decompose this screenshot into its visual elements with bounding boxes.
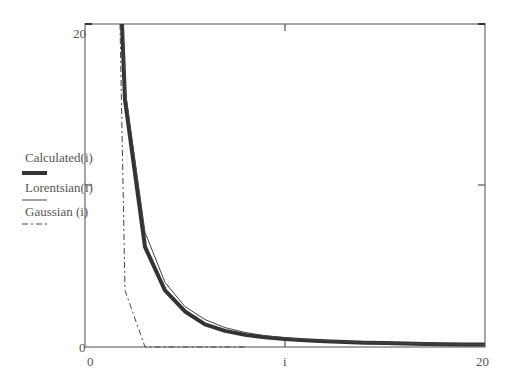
y-min-label: 0 [79, 340, 86, 356]
x-axis-var-label: i [283, 354, 287, 370]
legend-label-calculated: Calculated(i) [25, 150, 93, 166]
legend-label-gaussian: Gaussian (i) [25, 204, 88, 220]
plot-frame [85, 24, 485, 347]
x-max-label: 20 [476, 354, 489, 370]
series-layer [120, 24, 485, 347]
legend-label-lorentsian: Lorentsian(i) [25, 180, 93, 196]
y-max-label: 20 [73, 26, 86, 42]
x-min-label: 0 [87, 354, 94, 370]
series-lorentsiani [123, 24, 485, 345]
